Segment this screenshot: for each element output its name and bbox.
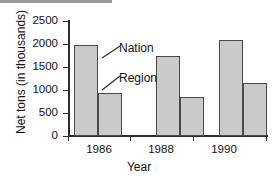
bar-1988-region [180, 97, 204, 136]
annotation-region-label: Region [119, 71, 157, 85]
x-tick-left-edge [68, 136, 69, 141]
x-axis-title: Year [0, 160, 278, 174]
bar-1990-nation [219, 40, 243, 136]
annotation-nation-leader-line [100, 44, 122, 60]
scan-artifact-rule [0, 0, 112, 3]
bar-1990-region [243, 83, 267, 136]
x-tick-divider-2 [193, 136, 194, 141]
bar-1986-nation [74, 45, 98, 136]
bar-1988-nation [156, 56, 180, 136]
annotation-region-leader-line [100, 74, 122, 92]
bar-chart: 2500 2000 1500 1000 500 0 Net tons (in t… [0, 0, 278, 180]
plot-area [68, 21, 254, 136]
annotation-nation-label: Nation [119, 41, 154, 55]
x-tick-label-1986: 1986 [76, 143, 122, 155]
y-axis-title: Net tons (in thousands) [14, 10, 28, 134]
x-tick-label-1990: 1990 [201, 143, 247, 155]
x-tick-label-1988: 1988 [138, 143, 184, 155]
bar-1986-region [98, 93, 122, 136]
x-tick-divider-1 [130, 136, 131, 141]
x-tick-right-edge [266, 136, 267, 141]
